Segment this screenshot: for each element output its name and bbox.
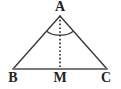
vertex-label-m: M: [52, 71, 68, 85]
geometry-figure: A B M C: [0, 0, 121, 89]
vertex-label-a: A: [53, 0, 67, 14]
angle-arc-bam: [47, 31, 60, 35]
angle-arc-mac: [60, 31, 73, 35]
triangle-side-ab: [13, 16, 60, 69]
triangle-side-ac: [60, 16, 107, 69]
vertex-label-b: B: [6, 71, 20, 85]
vertex-label-c: C: [99, 71, 113, 85]
